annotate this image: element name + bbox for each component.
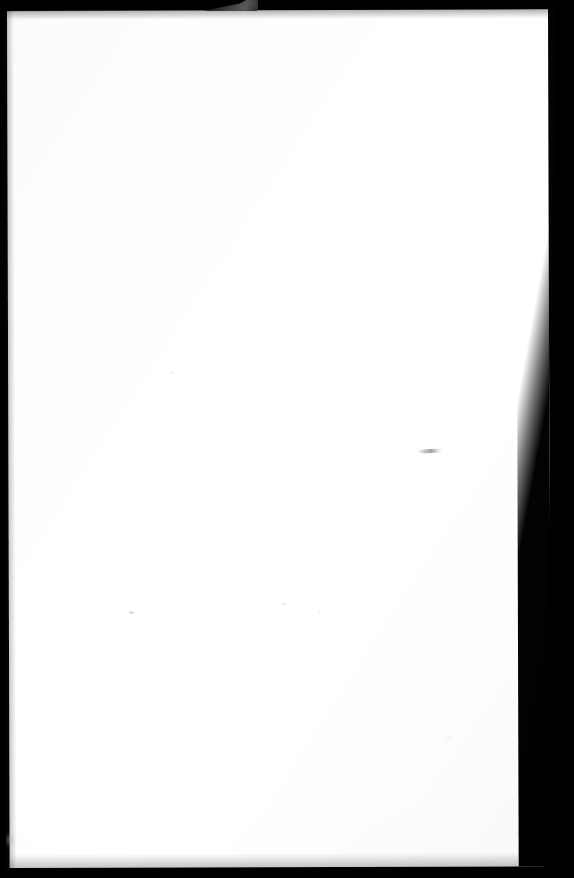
paper-bottom-edge-shadow	[10, 852, 551, 868]
paper-right-edge-shadow	[516, 9, 551, 866]
speck-d-artifact	[318, 610, 321, 612]
speck-a-artifact	[129, 611, 134, 614]
scanned-document-viewport	[0, 0, 574, 878]
smudge-mid-right-artifact	[444, 735, 454, 741]
paper-left-edge-shadow	[7, 11, 17, 868]
scan-border-left	[0, 0, 7, 878]
scan-border-right	[548, 0, 574, 878]
paper-sheet	[7, 9, 551, 868]
speck-b-artifact	[282, 603, 286, 605]
speck-c-artifact	[170, 371, 173, 374]
